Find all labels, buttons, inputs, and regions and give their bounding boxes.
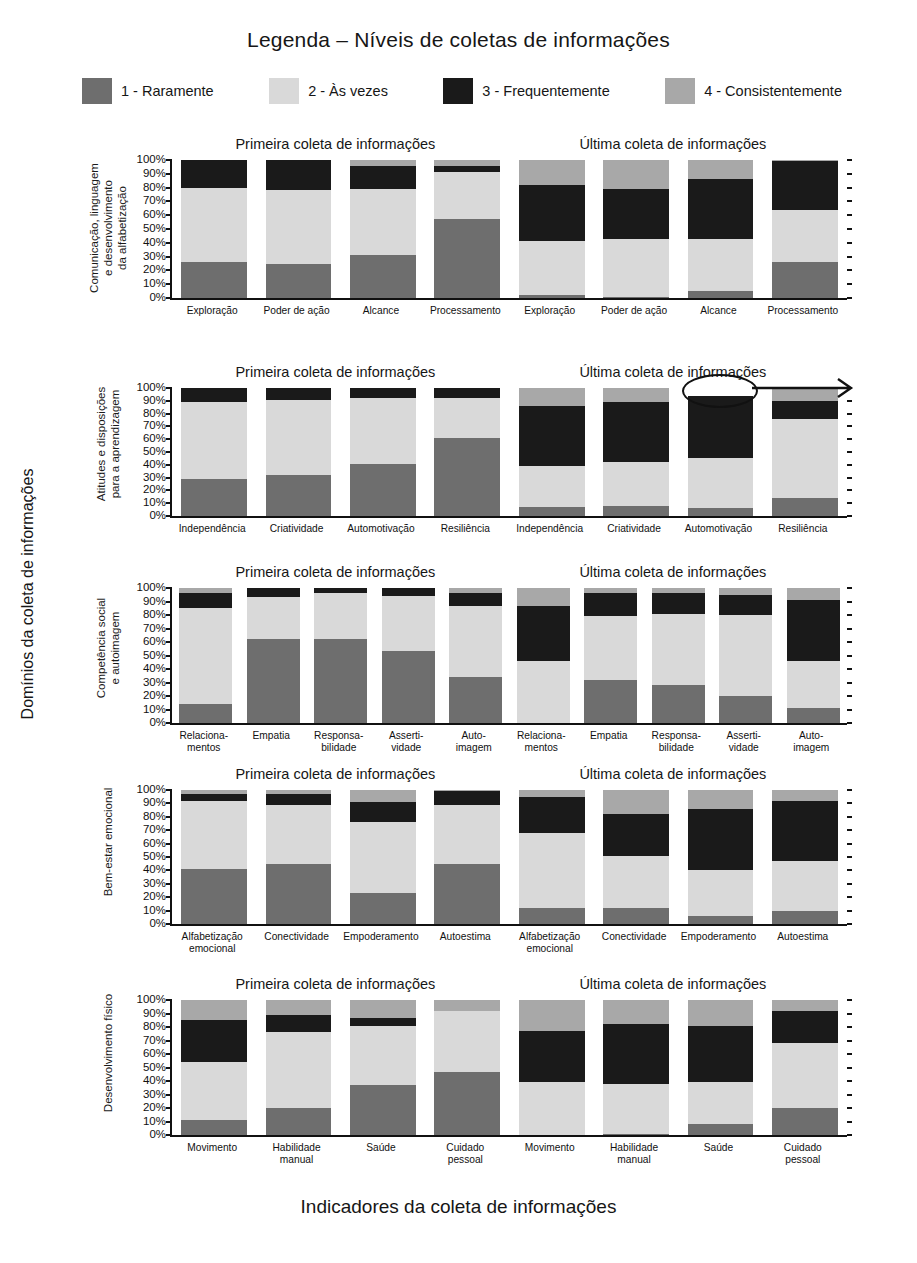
stacked-bar[interactable] — [787, 588, 840, 723]
bar-segment-2 — [181, 188, 247, 263]
stacked-bar[interactable] — [179, 588, 232, 723]
bar-segment-2 — [772, 1043, 838, 1108]
stacked-bar[interactable] — [603, 160, 669, 298]
bar-segment-4 — [350, 1000, 416, 1018]
x-axis-label: Relaciona-mentos — [508, 730, 576, 754]
bar-segment-2 — [787, 661, 840, 708]
bar-slot — [577, 588, 645, 723]
bar-slot — [172, 1000, 256, 1135]
y-tick-mark-right — [847, 641, 852, 643]
stacked-bar[interactable] — [772, 790, 838, 924]
stacked-bar[interactable] — [434, 388, 500, 516]
bar-segment-3 — [266, 160, 332, 190]
bar-segment-3 — [688, 179, 754, 238]
x-axis-label: Auto-imagem — [778, 730, 846, 754]
x-axis-labels: MovimentoHabilidademanualSaúdeCuidadopes… — [170, 1142, 845, 1166]
y-tick-mark-right — [847, 438, 852, 440]
bar-segment-1 — [772, 262, 838, 298]
stacked-bar[interactable] — [350, 388, 416, 516]
y-tick-mark-right — [847, 1026, 852, 1028]
bar-segment-4 — [434, 1000, 500, 1011]
y-tick-mark-right — [847, 283, 852, 285]
stacked-bar[interactable] — [517, 588, 570, 723]
stacked-bar[interactable] — [652, 588, 705, 723]
stacked-bar[interactable] — [519, 790, 585, 924]
y-tick-mark-right — [847, 682, 852, 684]
stacked-bar[interactable] — [181, 160, 247, 298]
bar-segment-1 — [266, 864, 332, 924]
stacked-bar[interactable] — [434, 160, 500, 298]
stacked-bar[interactable] — [266, 160, 332, 298]
bar-slot — [341, 388, 425, 516]
bar-slot — [763, 1000, 847, 1135]
stacked-bar[interactable] — [247, 588, 300, 723]
stacked-bar[interactable] — [519, 1000, 585, 1135]
group-title-first: Primeira coleta de informações — [235, 364, 435, 380]
bar-segment-2 — [434, 805, 500, 864]
bar-segment-4 — [688, 160, 754, 179]
x-axis-label: Habilidademanual — [592, 1142, 676, 1166]
stacked-bar[interactable] — [434, 790, 500, 924]
x-axis-labels: AlfabetizaçãoemocionalConectividadeEmpod… — [170, 931, 845, 955]
bar-slot — [712, 588, 780, 723]
stacked-bar[interactable] — [719, 588, 772, 723]
x-axis-label: Movimento — [508, 1142, 592, 1166]
stacked-bar[interactable] — [266, 388, 332, 516]
group-title-first: Primeira coleta de informações — [235, 766, 435, 782]
stacked-bar[interactable] — [688, 790, 754, 924]
x-axis-label: Independência — [170, 523, 254, 535]
bar-segment-3 — [266, 794, 332, 805]
legend: 1 - Raramente 2 - Às vezes 3 - Frequente… — [82, 78, 842, 104]
bar-segment-4 — [772, 790, 838, 801]
stacked-bar[interactable] — [314, 588, 367, 723]
stacked-bar[interactable] — [603, 790, 669, 924]
bar-segment-2 — [772, 419, 838, 498]
bar-segment-2 — [181, 1062, 247, 1120]
stacked-bar[interactable] — [181, 388, 247, 516]
bar-segment-1 — [772, 1108, 838, 1135]
y-tick-mark-right — [847, 200, 852, 202]
bar-segment-3 — [603, 189, 669, 239]
stacked-bar[interactable] — [688, 1000, 754, 1135]
stacked-bar[interactable] — [350, 790, 416, 924]
bar-slot — [594, 1000, 678, 1135]
stacked-bar[interactable] — [181, 1000, 247, 1135]
bar-segment-3 — [266, 388, 332, 400]
stacked-bar[interactable] — [266, 790, 332, 924]
stacked-bar[interactable] — [350, 160, 416, 298]
legend-swatch-frequentemente — [443, 78, 473, 104]
stacked-bar[interactable] — [382, 588, 435, 723]
x-axis-label: Cuidadopessoal — [761, 1142, 845, 1166]
bar-segment-2 — [603, 239, 669, 297]
y-tick-mark-right — [847, 722, 852, 724]
stacked-bar[interactable] — [772, 160, 838, 298]
stacked-bar[interactable] — [519, 160, 585, 298]
bar-segment-1 — [688, 916, 754, 924]
bar-segment-3 — [350, 388, 416, 398]
bar-slot — [425, 1000, 509, 1135]
x-axis-label: Asserti-vidade — [373, 730, 441, 754]
y-tick-mark-right — [847, 214, 852, 216]
bar-segment-2 — [181, 801, 247, 869]
stacked-bar[interactable] — [519, 388, 585, 516]
stacked-bar[interactable] — [584, 588, 637, 723]
stacked-bar[interactable] — [772, 1000, 838, 1135]
x-axis-label: Exploração — [508, 305, 592, 317]
bar-segment-1 — [434, 864, 500, 924]
bar-slot — [256, 160, 340, 298]
stacked-bar[interactable] — [603, 388, 669, 516]
stacked-bar[interactable] — [434, 1000, 500, 1135]
stacked-bar[interactable] — [772, 388, 838, 516]
bar-segment-3 — [434, 388, 500, 398]
panel-domain-label: Atitudes e disposiçõespara a aprendizage… — [94, 369, 122, 519]
stacked-bar[interactable] — [181, 790, 247, 924]
bar-segment-2 — [350, 1026, 416, 1085]
stacked-bar[interactable] — [603, 1000, 669, 1135]
annotation-arrow-icon — [752, 374, 872, 404]
stacked-bar[interactable] — [449, 588, 502, 723]
bar-segment-2 — [314, 593, 367, 639]
stacked-bar[interactable] — [266, 1000, 332, 1135]
stacked-bar[interactable] — [688, 160, 754, 298]
bar-segment-1 — [434, 1072, 500, 1135]
stacked-bar[interactable] — [350, 1000, 416, 1135]
